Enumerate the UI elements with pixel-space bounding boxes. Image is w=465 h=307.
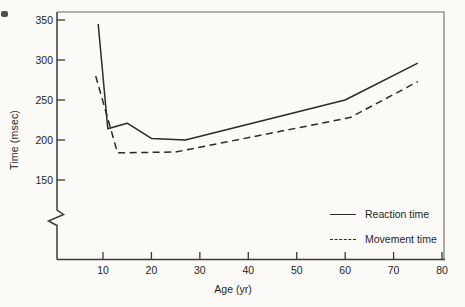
solid-line-sample-icon (330, 214, 356, 215)
y-tick-label: 300 (35, 54, 53, 66)
y-tick-label: 250 (35, 94, 53, 106)
x-tick-label: 50 (291, 264, 303, 276)
legend-label-movement-time: Movement time (365, 233, 437, 245)
legend-item-reaction-time: Reaction time (330, 206, 448, 222)
legend: Reaction time Movement time (330, 206, 448, 256)
x-tick-label: 60 (339, 264, 351, 276)
reaction-movement-time-chart: 1502002503003501020304050607080 Time (ms… (0, 0, 465, 307)
x-tick-label: 80 (436, 264, 448, 276)
y-tick-label: 150 (35, 174, 53, 186)
x-tick-label: 20 (146, 264, 158, 276)
x-axis-title: Age (yr) (193, 283, 273, 295)
y-tick-label: 200 (35, 134, 53, 146)
x-tick-label: 30 (194, 264, 206, 276)
y-axis-title: Time (msec) (8, 95, 20, 185)
x-tick-label: 40 (242, 264, 254, 276)
chart-svg: 1502002503003501020304050607080 (0, 0, 465, 307)
y-tick-label: 350 (35, 14, 53, 26)
legend-label-reaction-time: Reaction time (365, 208, 429, 220)
x-tick-label: 10 (97, 264, 109, 276)
dashed-line-sample-icon (330, 239, 356, 240)
legend-item-movement-time: Movement time (330, 231, 448, 247)
reaction-time-line (98, 24, 418, 140)
x-tick-label: 70 (388, 264, 400, 276)
